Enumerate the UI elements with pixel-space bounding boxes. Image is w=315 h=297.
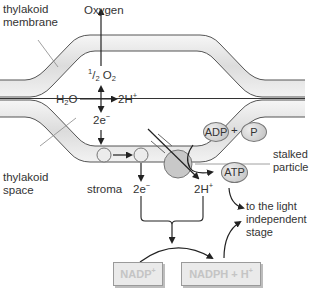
light-independent-stage-label: to the light independent stage xyxy=(246,200,307,239)
nadp-box: NADP+ xyxy=(113,262,163,286)
electron-carrier-2 xyxy=(134,148,148,162)
upper-thylakoid-membrane xyxy=(0,35,305,97)
nadph-box: NADPH + H+ xyxy=(181,262,261,286)
half-o2-label: 1/2 O2 xyxy=(88,69,116,82)
combine-bracket xyxy=(141,196,203,225)
atp-to-stage-arrow xyxy=(229,188,243,208)
thylakoid-space-label: thylakoid space xyxy=(3,171,48,197)
nadp-reduction-arrow xyxy=(140,248,212,262)
phosphate-molecule: P xyxy=(241,122,267,142)
stroma-label: stroma xyxy=(87,183,122,196)
plus-sign: + xyxy=(231,124,238,137)
2e-bottom-label: 2e− xyxy=(133,183,150,196)
electron-carrier-1 xyxy=(97,148,111,162)
oxygen-label: Oxygen xyxy=(84,4,124,17)
thylakoid-membrane-label: thylakoid membrane xyxy=(3,3,58,29)
2e-top-label: 2e− xyxy=(93,114,110,127)
atp-molecule: ATP xyxy=(221,162,248,183)
thylakoid-diagram xyxy=(0,0,315,297)
2h-plus-top-label: 2H+ xyxy=(118,93,137,106)
h2o-label: H2O xyxy=(56,93,77,106)
nadph-to-stage-arrow xyxy=(224,222,240,258)
membrane-leader-line xyxy=(38,40,58,67)
adp-molecule: ADP xyxy=(203,122,229,142)
stalked-particle-label: stalked particle xyxy=(273,148,308,174)
2h-plus-bottom-label: 2H+ xyxy=(194,183,213,196)
